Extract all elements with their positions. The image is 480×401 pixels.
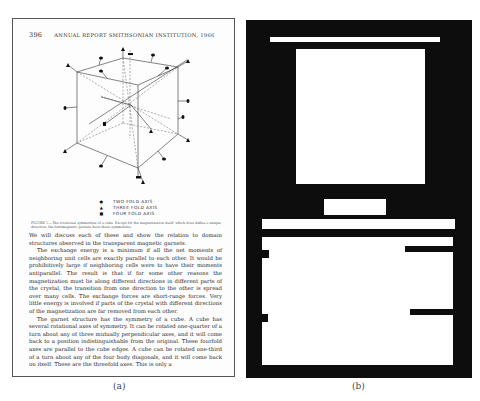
figure-caption: FIGURE 5.—The rotational symmetries of a… (31, 221, 221, 229)
paragraph: We will discuss each of these and show t… (29, 232, 222, 247)
paragraph: The exchange energy is a minimum if all … (29, 247, 222, 315)
mask-notch (262, 250, 269, 258)
mask-line-end (405, 246, 453, 252)
four-fold-axis-icon: ■ (98, 211, 105, 217)
mask-caption-region (262, 219, 455, 229)
cube-symmetry-figure (13, 19, 236, 199)
legend-label: FOUR FOLD AXIS (113, 211, 155, 217)
mask-text-region (262, 237, 453, 365)
body-text: We will discuss each of these and show t… (29, 232, 222, 369)
legend-item-four-fold: ■ FOUR FOLD AXIS (98, 211, 157, 217)
mask-notch (262, 314, 268, 322)
figure-legend: ● TWO FOLD AXIS ▲ THREE FOLD AXIS ■ FOUR… (98, 199, 157, 217)
mask-line-end (410, 309, 453, 315)
panel-label-a: (a) (113, 381, 125, 391)
panel-label-b: (b) (352, 381, 365, 391)
layout-mask (246, 20, 472, 378)
paragraph: The garnet structure has the symmetry of… (29, 316, 222, 369)
mask-header-region (270, 37, 440, 42)
mask-figure-region (296, 49, 425, 184)
mask-legend-region (324, 199, 386, 215)
document-page: 396 ANNUAL REPORT SMITHSONIAN INSTITUTIO… (12, 18, 235, 377)
